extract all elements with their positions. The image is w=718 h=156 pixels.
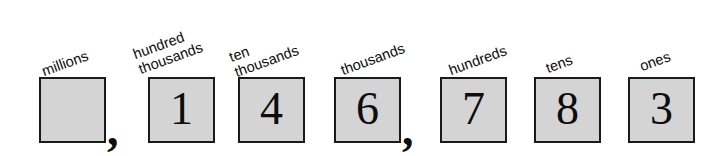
digit-box-hundred-thousands[interactable]: 1 (148, 77, 215, 143)
digit-value-ten-thousands: 4 (260, 86, 283, 132)
digit-box-hundreds[interactable]: 7 (440, 77, 507, 143)
digit-value-thousands: 6 (356, 86, 379, 132)
digit-box-tens[interactable]: 8 (534, 77, 601, 143)
digit-box-ten-thousands[interactable]: 4 (238, 77, 305, 143)
digit-box-thousands[interactable]: 6 (334, 77, 401, 143)
place-label-ten-thousands: ten thousands (227, 27, 301, 80)
place-label-hundred-thousands: hundred thousands (131, 24, 205, 77)
digit-box-ones[interactable]: 3 (628, 77, 695, 143)
digit-value-hundreds: 7 (462, 86, 485, 132)
digit-value-ones: 3 (650, 86, 673, 132)
group-separator-comma-after-thousands: , (402, 107, 414, 153)
digit-box-millions[interactable] (39, 77, 106, 143)
place-label-thousands: thousands (338, 40, 406, 78)
place-label-ones: ones (637, 48, 672, 74)
digit-value-tens: 8 (556, 86, 579, 132)
group-separator-comma-after-millions: , (107, 107, 119, 153)
place-value-chart: millions,hundred thousands1ten thousands… (0, 0, 718, 156)
digit-value-hundred-thousands: 1 (170, 86, 193, 132)
place-label-tens: tens (543, 52, 574, 77)
place-label-millions: millions (39, 47, 90, 79)
place-label-hundreds: hundreds (446, 42, 508, 78)
